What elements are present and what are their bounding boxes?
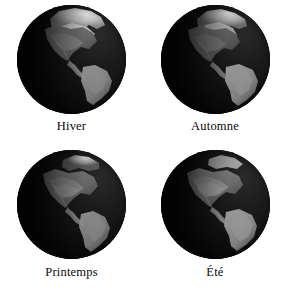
globe-hiver	[17, 5, 126, 114]
seasons-figure: Hiver	[0, 0, 287, 291]
caption-printemps: Printemps	[45, 266, 98, 279]
globe-grid: Hiver	[0, 0, 287, 291]
panel-printemps: Printemps	[0, 145, 143, 291]
panel-automne: Automne	[143, 0, 287, 145]
earth-globe-icon	[17, 5, 126, 114]
panel-ete: Été	[143, 145, 287, 291]
caption-hiver: Hiver	[57, 120, 86, 133]
globe-limb-shading	[17, 5, 126, 114]
panel-hiver: Hiver	[0, 0, 143, 145]
globe-automne	[161, 5, 270, 114]
earth-globe-icon	[161, 150, 270, 259]
globe-ete	[161, 150, 270, 259]
caption-ete: Été	[206, 266, 223, 279]
globe-limb-shading	[161, 5, 270, 114]
caption-automne: Automne	[191, 120, 239, 133]
globe-limb-shading	[161, 150, 270, 259]
globe-printemps	[17, 150, 126, 259]
earth-globe-icon	[161, 5, 270, 114]
earth-globe-icon	[17, 150, 126, 259]
globe-limb-shading	[17, 150, 126, 259]
